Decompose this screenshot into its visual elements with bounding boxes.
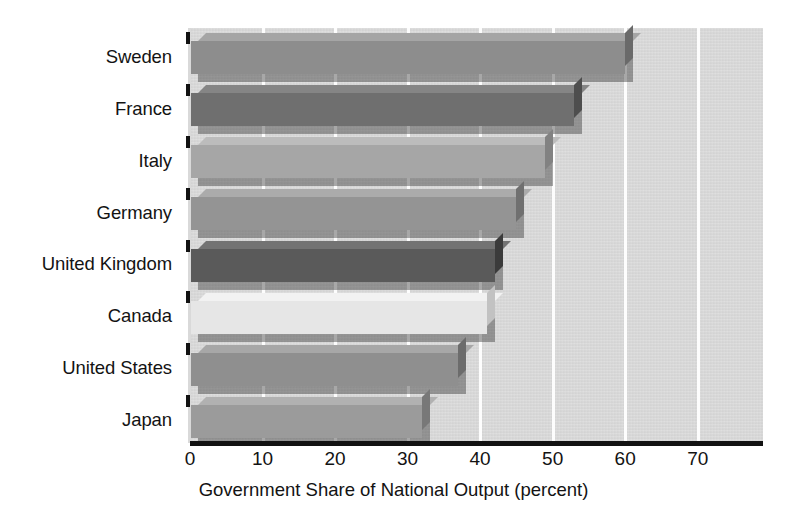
category-label-italy: Italy (139, 152, 172, 171)
bar (190, 249, 495, 282)
bar-front-face (190, 353, 458, 386)
bar-front-face (190, 41, 625, 74)
bar (190, 41, 625, 74)
bar (190, 145, 545, 178)
bar (190, 353, 458, 386)
bar (190, 301, 487, 334)
category-label-france: France (115, 100, 172, 119)
plot-area (190, 28, 763, 443)
y-tick-stub (186, 32, 190, 44)
bar-top-face (198, 345, 474, 353)
category-label-united-kingdom: United Kingdom (42, 255, 172, 274)
bar-top-face (198, 33, 641, 41)
category-axis-labels: SwedenFranceItalyGermanyUnited KingdomCa… (0, 28, 180, 443)
x-axis-title: Government Share of National Output (per… (0, 479, 787, 501)
category-label-sweden: Sweden (106, 48, 172, 67)
bar (190, 197, 516, 230)
x-tick-label-30: 30 (397, 449, 418, 468)
bar-front-face (190, 405, 422, 438)
x-axis-line (190, 441, 763, 446)
category-label-japan: Japan (122, 411, 172, 430)
bar-front-face (190, 301, 487, 334)
bar (190, 405, 422, 438)
bar-top-face (198, 241, 511, 249)
y-tick-stub (186, 395, 190, 407)
x-tick-label-70: 70 (687, 449, 708, 468)
x-tick-label-20: 20 (324, 449, 345, 468)
y-tick-stub (186, 136, 190, 148)
x-axis-tick-labels: 010203040506070 (0, 449, 787, 477)
y-tick-stub (186, 343, 190, 355)
category-label-united-states: United States (62, 359, 172, 378)
bar-top-face (198, 137, 561, 145)
category-label-canada: Canada (108, 307, 172, 326)
bar-top-face (198, 85, 590, 93)
bar-top-face (198, 189, 532, 197)
y-tick-stub (186, 188, 190, 200)
x-tick-label-0: 0 (185, 449, 196, 468)
x-tick-label-10: 10 (252, 449, 273, 468)
y-tick-stub (186, 240, 190, 252)
bar-front-face (190, 93, 574, 126)
bar-chart: SwedenFranceItalyGermanyUnited KingdomCa… (0, 0, 787, 509)
category-label-germany: Germany (97, 204, 172, 223)
bar-front-face (190, 197, 516, 230)
gridline-70 (697, 28, 700, 443)
y-tick-stub (186, 291, 190, 303)
y-tick-stub (186, 84, 190, 96)
bar-top-face (198, 397, 438, 405)
bar-front-face (190, 249, 495, 282)
bar-top-face (198, 293, 503, 301)
x-tick-label-60: 60 (615, 449, 636, 468)
gridline-60 (624, 28, 627, 443)
x-tick-label-40: 40 (470, 449, 491, 468)
bar-front-face (190, 145, 545, 178)
x-tick-label-50: 50 (542, 449, 563, 468)
bar (190, 93, 574, 126)
